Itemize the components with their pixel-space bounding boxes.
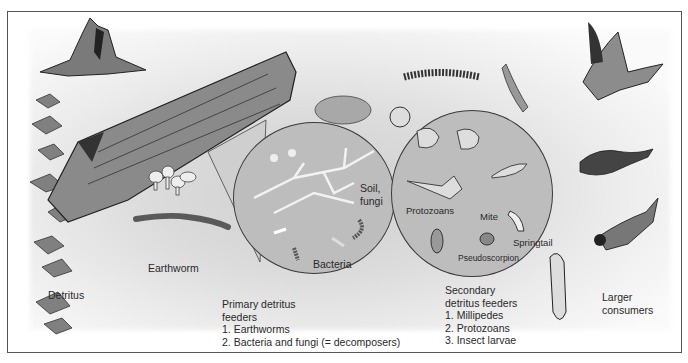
label-springtail: Springtail [513, 237, 553, 248]
amoeba-icon [417, 128, 439, 148]
springtail-icon [508, 211, 524, 231]
mite-icon [480, 233, 494, 245]
secondary-zoom-circle [391, 110, 553, 277]
protozoan-flagellum-icon [407, 176, 462, 199]
snail-mound-icon [315, 96, 371, 124]
label-consumers-line: consumers [602, 304, 653, 317]
secondary-item: 3. Insect larvae [445, 334, 517, 347]
insect-larva-icon [550, 253, 566, 319]
hawk-icon [583, 22, 663, 100]
secondary-item: 1. Millipedes [445, 309, 517, 322]
secondary-feeders-caption: Secondary detritus feeders 1. Millipedes… [445, 284, 517, 347]
diagram-frame: Detritus Earthworm Soil, fungi Bacteria … [7, 11, 682, 353]
primary-item: 2. Bacteria and fungi (= decomposers) [222, 336, 400, 349]
label-larger-consumers: Larger consumers [602, 291, 653, 316]
slug-icon [502, 64, 528, 112]
earthworm-icon [136, 216, 228, 227]
label-protozoans: Protozoans [406, 205, 454, 216]
primary-feeders-caption: Primary detritus feeders 1. Earthworms 2… [222, 298, 400, 348]
soil-fauna-layer [392, 111, 552, 276]
primary-heading-line2: feeders [222, 311, 400, 324]
paramecium-icon [457, 129, 479, 149]
label-earthworm: Earthworm [148, 262, 199, 275]
label-bacteria: Bacteria [313, 258, 352, 271]
pseudoscorpion-icon [431, 229, 443, 253]
shrew-icon [580, 149, 653, 175]
label-mite: Mite [480, 211, 498, 222]
tree-stump-icon [40, 18, 146, 76]
bird-icon [594, 198, 658, 250]
secondary-item: 2. Protozoans [445, 322, 517, 335]
secondary-heading-line2: detritus feeders [445, 297, 517, 310]
label-larger-line: Larger [602, 291, 653, 304]
primary-heading-line1: Primary detritus [222, 298, 400, 311]
secondary-heading-line1: Secondary [445, 284, 517, 297]
label-detritus: Detritus [48, 289, 84, 302]
label-fungi-line: fungi [360, 195, 383, 208]
millipede-icon [404, 73, 480, 78]
label-soil-line: Soil, [360, 182, 383, 195]
primary-item: 1. Earthworms [222, 323, 400, 336]
label-pseudoscorpion: Pseudoscorpion [458, 253, 519, 264]
flagellate-icon [492, 164, 527, 178]
label-soil-fungi: Soil, fungi [360, 182, 383, 207]
